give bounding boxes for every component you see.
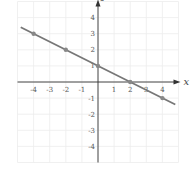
y-tick-label: -2	[88, 111, 95, 119]
x-tick-label: -2	[62, 86, 69, 94]
y-axis-arrow-icon	[96, 0, 101, 7]
x-tick-label: -1	[78, 86, 85, 94]
y-axis-label: y	[100, 0, 107, 1]
y-tick-label: -4	[88, 143, 95, 151]
y-tick-label: -1	[88, 95, 95, 103]
data-point	[160, 96, 164, 100]
x-axis-label: x	[184, 76, 190, 87]
y-tick-label: 3	[91, 30, 95, 38]
data-point	[128, 80, 132, 84]
x-tick-label: 2	[128, 86, 132, 94]
data-point	[64, 48, 68, 52]
x-tick-label: -3	[46, 86, 53, 94]
data-point	[31, 32, 35, 36]
axes: xy	[18, 0, 190, 163]
y-tick-label: -3	[88, 127, 95, 135]
y-tick-label: 2	[91, 46, 95, 54]
x-tick-label: 4	[160, 86, 165, 94]
x-axis-arrow-icon	[174, 80, 181, 85]
x-tick-label: 1	[112, 86, 116, 94]
line-graph: xy -4-3-2-112344321-1-2-3-4	[0, 0, 193, 173]
y-tick-label: 4	[91, 14, 96, 22]
x-tick-label: -4	[30, 86, 37, 94]
data-point	[96, 64, 100, 68]
